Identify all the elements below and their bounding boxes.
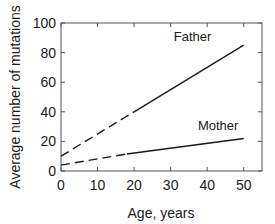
series-mother-observed	[127, 138, 244, 154]
x-tick-label: 10	[90, 177, 106, 193]
y-tick-label: 80	[40, 45, 56, 61]
series-father-observed	[134, 45, 244, 112]
y-tick-label: 60	[40, 74, 56, 90]
series-father-extrapolated	[61, 112, 134, 156]
series-label-father: Father	[174, 29, 212, 44]
series-lines	[61, 45, 244, 165]
y-tick-label: 20	[40, 133, 56, 149]
mutation-age-chart: 01020304050020406080100 Father Mother Ag…	[0, 0, 275, 224]
x-axis-label: Age, years	[128, 205, 195, 221]
series-label-mother: Mother	[198, 118, 239, 133]
x-tick-label: 30	[163, 177, 179, 193]
y-tick-label: 100	[33, 15, 57, 31]
x-tick-label: 50	[236, 177, 252, 193]
y-tick-label: 0	[48, 163, 56, 179]
x-tick-label: 20	[126, 177, 142, 193]
tick-labels: 01020304050020406080100	[33, 15, 252, 193]
x-tick-label: 0	[57, 177, 65, 193]
y-tick-label: 40	[40, 104, 56, 120]
x-tick-label: 40	[199, 177, 215, 193]
y-axis-label: Average number of mutations	[7, 5, 23, 188]
series-mother-extrapolated	[61, 154, 127, 165]
